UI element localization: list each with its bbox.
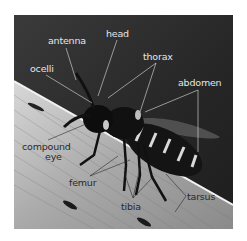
label-tarsus: tarsus [187,192,215,202]
label-thorax: thorax [143,52,173,62]
label-compound-eye-line2: eye [45,152,62,162]
label-head: head [106,29,129,39]
label-ocelli: ocelli [30,64,54,74]
label-antenna: antenna [48,36,86,46]
label-abdomen: abdomen [178,78,221,88]
label-tibia: tibia [121,202,141,212]
label-femur: femur [69,178,96,188]
